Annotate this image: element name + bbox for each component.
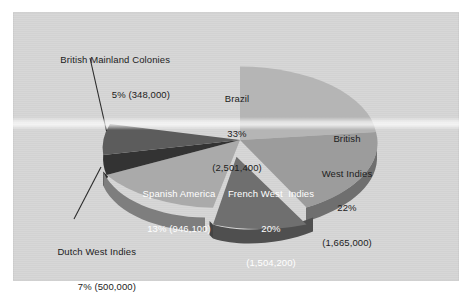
chart-root: British Mainland Colonies 5% (348,000) D… [0, 0, 471, 294]
slice-label-line: 13% (946,100) [118, 223, 240, 235]
slice-label-line: British Mainland Colonies [27, 54, 170, 66]
slice-label-line: British [303, 133, 391, 145]
slice-label-spanish-america: Spanish America 13% (946,100) [118, 165, 240, 257]
slice-label-line: 33% [185, 128, 289, 140]
slice-label-line: (1,504,200) [209, 257, 333, 269]
slice-label-line: 5% (348,000) [27, 89, 170, 101]
leader-line-dutch-west-indies [74, 167, 101, 219]
slice-label-line: Spanish America [118, 188, 240, 200]
slice-label-line: 7% (500,000) [17, 281, 136, 293]
slice-label-british-mainland-colonies: British Mainland Colonies 5% (348,000) [27, 31, 170, 123]
slice-label-line: Brazil [185, 93, 289, 105]
